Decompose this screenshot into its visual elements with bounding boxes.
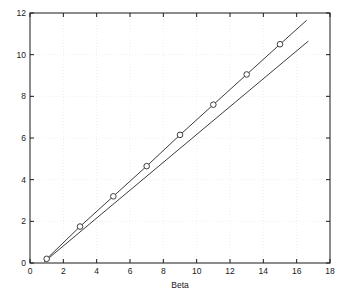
x-tick-label: 12 bbox=[225, 267, 234, 276]
x-axis-label: Beta bbox=[171, 281, 189, 290]
data-point-marker bbox=[244, 72, 250, 78]
plot-svg bbox=[0, 0, 345, 299]
data-point-marker bbox=[77, 224, 83, 230]
data-point-marker bbox=[211, 102, 217, 108]
x-tick-label: 18 bbox=[325, 267, 334, 276]
y-tick-label: 2 bbox=[21, 217, 26, 226]
y-tick-label: 6 bbox=[21, 134, 26, 143]
data-point-marker bbox=[177, 132, 183, 138]
series-line-data bbox=[47, 20, 307, 259]
x-tick-label: 6 bbox=[128, 267, 133, 276]
y-tick-label: 0 bbox=[21, 259, 26, 268]
y-tick-label: 12 bbox=[17, 9, 26, 18]
data-point-marker bbox=[44, 256, 50, 262]
x-tick-label: 4 bbox=[94, 267, 99, 276]
x-tick-label: 2 bbox=[61, 267, 66, 276]
data-point-marker bbox=[111, 194, 117, 200]
series-lines bbox=[44, 20, 308, 262]
y-tick-label: 4 bbox=[21, 175, 26, 184]
data-point-marker bbox=[144, 163, 150, 169]
x-tick-label: 16 bbox=[292, 267, 301, 276]
x-tick-label: 14 bbox=[259, 267, 268, 276]
data-point-marker bbox=[277, 41, 283, 47]
y-tick-label: 10 bbox=[17, 50, 26, 59]
series-line-reference-line bbox=[44, 41, 308, 262]
x-tick-label: 10 bbox=[192, 267, 201, 276]
x-tick-label: 0 bbox=[28, 267, 33, 276]
x-tick-label: 8 bbox=[161, 267, 166, 276]
figure-canvas: 024681012141618 024681012 Beta bbox=[0, 0, 345, 299]
y-tick-label: 8 bbox=[21, 92, 26, 101]
